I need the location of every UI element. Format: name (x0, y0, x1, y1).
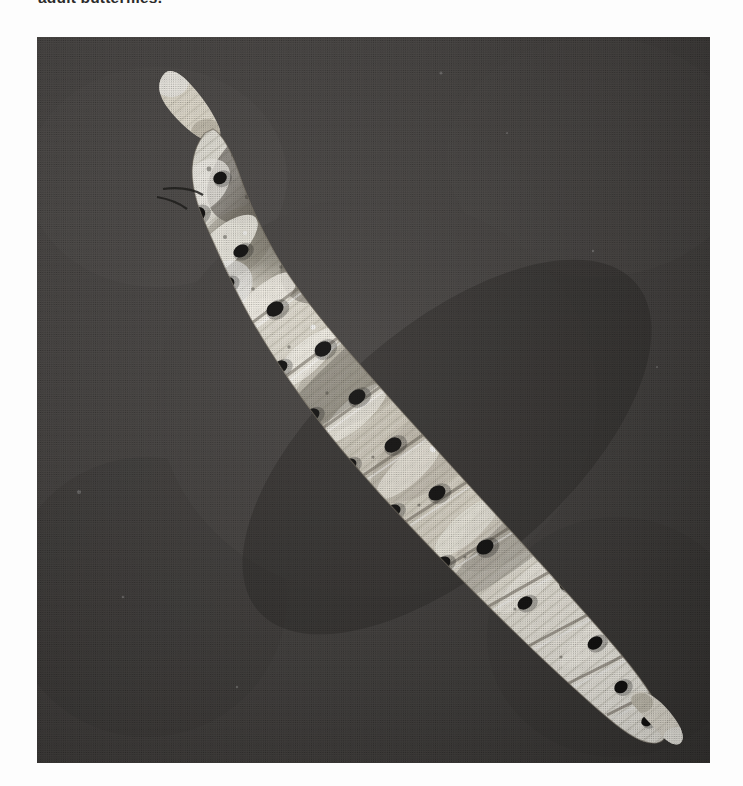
chrysalis-illustration (37, 37, 710, 763)
figure-caption-text: adult butterflies. (38, 0, 162, 6)
figure-caption-clipped: adult butterflies. (0, 0, 743, 6)
chrysalis-photograph-plate (37, 37, 710, 763)
scanned-page: adult butterflies. (0, 0, 743, 786)
